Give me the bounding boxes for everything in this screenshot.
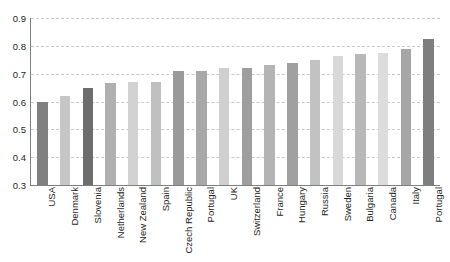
x-axis-tick-label: Portugal xyxy=(205,187,216,222)
x-axis-tick-label: Italy xyxy=(410,187,421,204)
bar-series xyxy=(31,18,440,185)
bar-chart: 0.30.40.50.60.70.80.9 USADenmarkSlovenia… xyxy=(0,0,450,262)
x-axis-tick-label: Spain xyxy=(160,187,171,211)
x-axis-tick-label: Portugal xyxy=(433,187,444,222)
y-axis-tick-label: 0.3 xyxy=(13,180,26,191)
bar xyxy=(287,63,297,185)
bar xyxy=(242,68,252,185)
bar xyxy=(105,83,115,185)
bar xyxy=(219,68,229,185)
x-axis-tick-label: UK xyxy=(228,187,239,200)
bar xyxy=(60,96,70,185)
y-axis-tick-label: 0.6 xyxy=(13,96,26,107)
bar xyxy=(83,88,93,185)
plot-area xyxy=(31,18,440,185)
x-axis-tick-label: Bulgaria xyxy=(364,187,375,222)
x-axis-tick-label: Czech Republic xyxy=(183,187,194,254)
x-axis-tick-label: Sweden xyxy=(342,187,353,221)
x-axis-tick-label: Canada xyxy=(387,187,398,220)
bar xyxy=(196,71,206,185)
x-axis-tick-label: Netherlands xyxy=(115,187,126,238)
y-axis-tick-label: 0.4 xyxy=(13,152,26,163)
bar xyxy=(264,65,274,185)
y-axis: 0.30.40.50.60.70.80.9 xyxy=(0,0,30,186)
y-axis-tick-label: 0.8 xyxy=(13,40,26,51)
y-axis-tick-label: 0.5 xyxy=(13,124,26,135)
bar xyxy=(355,54,365,185)
x-axis-tick-label: Slovenia xyxy=(92,187,103,223)
bar xyxy=(333,56,343,185)
x-axis-tick-label: New Zealand xyxy=(137,187,148,243)
x-axis-tick-label: Denmark xyxy=(69,187,80,226)
bar xyxy=(401,49,411,185)
x-axis-labels: USADenmarkSloveniaNetherlandsNew Zealand… xyxy=(31,187,440,262)
bar xyxy=(151,82,161,185)
x-axis-line xyxy=(30,185,440,186)
bar xyxy=(423,39,433,185)
y-axis-tick-label: 0.7 xyxy=(13,68,26,79)
x-axis-tick-label: USA xyxy=(46,187,57,207)
bar xyxy=(378,53,388,185)
bar xyxy=(310,60,320,185)
bar xyxy=(173,71,183,185)
bar xyxy=(37,102,47,186)
bar xyxy=(128,82,138,185)
x-axis-tick-label: Switzerland xyxy=(251,187,262,236)
y-axis-tick-label: 0.9 xyxy=(13,13,26,24)
x-axis-tick-label: Hungary xyxy=(296,187,307,223)
x-axis-tick-label: France xyxy=(274,187,285,217)
x-axis-tick-label: Russia xyxy=(319,187,330,216)
